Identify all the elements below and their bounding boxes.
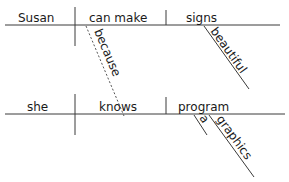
sub-subject: she [27,100,48,114]
connector-because: because [91,27,124,79]
sub-verb: knows [99,100,137,114]
main-subject: Susan [18,11,54,25]
subordinate-clause: she knows program a graphics [5,94,285,177]
modifier-graphics: graphics [214,113,255,163]
sub-object: program [178,100,229,114]
main-clause: Susan can make signs beautiful [5,7,280,89]
sentence-diagram: Susan can make signs beautiful because s… [0,0,289,182]
modifier-beautiful: beautiful [208,25,250,76]
main-verb: can make [89,11,147,25]
main-object: signs [186,11,217,25]
